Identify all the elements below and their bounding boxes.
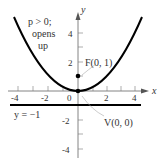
parabola-diagram: -4 -2 0 2 4 4 2 -2 -4 x y p > 0; opens u…	[0, 0, 163, 162]
focus-label: F(0, 1)	[85, 57, 112, 69]
annotation-line-2: opens	[32, 28, 55, 39]
directrix-label: y = −1	[14, 109, 40, 120]
x-tick-label: -2	[41, 93, 49, 103]
x-tick-label: 2	[104, 93, 109, 103]
y-tick-label: 2	[68, 58, 73, 68]
x-tick-label: -4	[11, 93, 19, 103]
annotation-line-1: p > 0;	[28, 16, 52, 27]
y-axis-label: y	[80, 4, 86, 15]
vertex-label: V(0, 0)	[104, 117, 133, 129]
y-axis-arrow-icon	[76, 12, 81, 20]
x-tick-label: 0	[67, 93, 72, 103]
annotation-line-3: up	[38, 40, 48, 51]
x-tick-label: 4	[132, 93, 137, 103]
y-tick-label: -2	[62, 116, 70, 126]
focus-point	[76, 74, 81, 79]
y-tick-label: 4	[68, 29, 73, 39]
y-tick-label: -4	[62, 145, 70, 155]
vertex-point	[76, 89, 81, 94]
x-axis-arrow-icon	[141, 89, 149, 94]
x-axis-label: x	[151, 85, 157, 96]
